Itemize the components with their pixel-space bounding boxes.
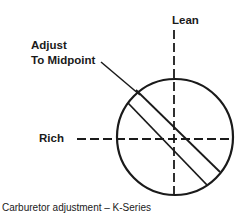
adjust-label-line2: To Midpoint — [31, 53, 95, 68]
slot-lower-edge — [128, 103, 207, 185]
figure-caption: Carburetor adjustment – K-Series — [2, 202, 151, 213]
adjustment-dial — [117, 79, 233, 195]
adjustment-diagram — [0, 0, 246, 219]
slot-upper-edge — [136, 90, 220, 172]
adjust-label-line1: Adjust — [31, 38, 67, 53]
lean-label: Lean — [172, 13, 199, 28]
midpoint-pointer — [101, 62, 140, 95]
rich-label: Rich — [39, 131, 64, 146]
